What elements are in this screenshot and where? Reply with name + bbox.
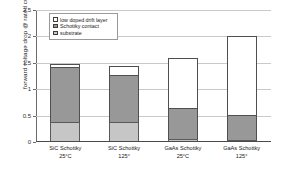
y-axis-tick-label: 2: [28, 33, 31, 39]
legend-swatch-schottky-icon: [53, 24, 58, 29]
y-axis-tick-label: 1.5: [23, 60, 31, 66]
y-axis-tick-label: 2.5: [23, 7, 31, 13]
x-axis-category-line: 25°C: [36, 153, 95, 161]
x-axis-category-line: SiC Schottky: [95, 145, 154, 153]
bar-segment-drift[interactable]: [109, 66, 139, 76]
x-axis-category-label: GaAs Schottky25°C: [154, 145, 213, 160]
x-axis-category-line: 25°C: [154, 153, 213, 161]
legend-swatch-drift-icon: [53, 17, 58, 22]
x-axis-labels: SiC Schottky25°CSiC Schottky125°GaAs Sch…: [36, 145, 271, 169]
legend-label-drift: low doped drift layer: [60, 17, 107, 23]
x-axis-category-line: GaAs Schottky: [154, 145, 213, 153]
chart-legend: low doped drift layer Schottky contact s…: [49, 13, 118, 40]
bar-segment-schottky[interactable]: [227, 115, 257, 141]
bar-segment-schottky[interactable]: [109, 75, 139, 122]
y-axis-title: forward voltage drop @ rated current (V): [21, 0, 28, 102]
y-axis-tick-label: 0: [28, 139, 31, 145]
x-axis-line: [36, 141, 271, 142]
bar-column[interactable]: [109, 66, 139, 142]
y-axis-tick: [33, 142, 36, 143]
legend-item-schottky: Schottky contact: [53, 23, 114, 29]
x-axis-category-line: 125°: [95, 153, 154, 161]
bar-column[interactable]: [227, 36, 257, 142]
x-axis-category-label: GaAs Schottky125°: [212, 145, 271, 160]
x-axis-category-line: GaAs Schottky: [212, 145, 271, 153]
y-axis-tick-label: 1: [28, 86, 31, 92]
legend-item-drift: low doped drift layer: [53, 17, 114, 23]
bar-column[interactable]: [50, 64, 80, 142]
bar-segment-schottky[interactable]: [50, 67, 80, 122]
bar-segment-substrate[interactable]: [50, 122, 80, 142]
bar-segment-schottky[interactable]: [168, 108, 198, 140]
stacked-bar-chart: forward voltage drop @ rated current (V)…: [0, 0, 281, 169]
y-axis-tick-label: 0.5: [23, 113, 31, 119]
bar-segment-drift[interactable]: [168, 58, 198, 108]
legend-item-substrate: substrate: [53, 30, 114, 36]
x-axis-category-line: 125°: [212, 153, 271, 161]
legend-label-schottky: Schottky contact: [60, 23, 99, 29]
legend-swatch-substrate-icon: [53, 31, 58, 36]
x-axis-category-label: SiC Schottky125°: [95, 145, 154, 160]
bar-segment-drift[interactable]: [227, 36, 257, 115]
legend-label-substrate: substrate: [60, 30, 82, 36]
x-axis-category-line: SiC Schottky: [36, 145, 95, 153]
bar-segment-substrate[interactable]: [109, 122, 139, 142]
bar-column[interactable]: [168, 58, 198, 142]
x-axis-category-label: SiC Schottky25°C: [36, 145, 95, 160]
